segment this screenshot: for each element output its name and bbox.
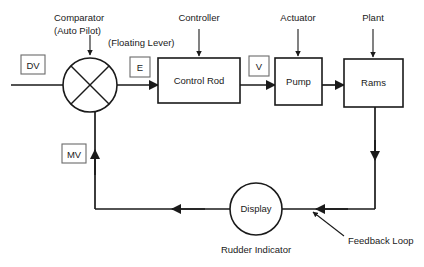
signal-label-v: V [256, 61, 263, 72]
signal-label-mv: MV [67, 149, 82, 160]
annotation-rudder-indicator: Rudder Indicator [221, 244, 291, 255]
signal-label-dv: DV [26, 60, 40, 71]
block-rams-label: Rams [361, 77, 386, 88]
annotation-feedback-loop: Feedback Loop [348, 235, 414, 246]
block-pump-label: Pump [286, 76, 311, 87]
annotation-controller: Controller [178, 12, 219, 23]
signal-label-e: E [137, 62, 143, 73]
annotation-plant: Plant [362, 12, 384, 23]
diagram-canvas: Control Rod Pump Rams Display DV E V MV … [0, 0, 424, 267]
annotation-actuator: Actuator [280, 12, 315, 23]
annotation-comparator-line1: Comparator [54, 12, 104, 23]
block-control-rod-label: Control Rod [174, 75, 225, 86]
annotation-comparator-line2: (Auto Pilot) [54, 25, 101, 36]
block-display-label: Display [240, 203, 271, 214]
callout-arrow-feedback-loop [313, 212, 344, 236]
block-diagram-figure: Control Rod Pump Rams Display DV E V MV … [0, 0, 424, 267]
annotation-floating-lever: (Floating Lever) [108, 37, 175, 48]
